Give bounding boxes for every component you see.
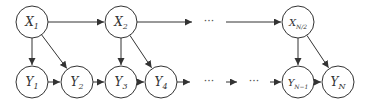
diagram-canvas: ········· X1X2XN/2Y1Y2Y3Y4YN−1YN (0, 0, 374, 106)
edge-x1-to-y2 (42, 35, 67, 69)
node-y1: Y1 (16, 66, 48, 98)
node-yn1: YN−1 (282, 66, 314, 98)
node-xn2: XN/2 (282, 6, 314, 38)
node-x1: X1 (16, 6, 48, 38)
node-x2: X2 (105, 6, 137, 38)
ellipsis-text: ··· (204, 15, 215, 28)
edge-xn2-to-yn (307, 35, 329, 68)
node-circle (282, 6, 314, 38)
nodes-layer: X1X2XN/2Y1Y2Y3Y4YN−1YN (16, 6, 354, 98)
ellipses-layer: ········· (204, 15, 260, 88)
node-y2: Y2 (61, 66, 93, 98)
ellipsis-text: ··· (249, 75, 260, 88)
graphical-model-diagram: ········· X1X2XN/2Y1Y2Y3Y4YN−1YN (0, 0, 374, 106)
node-y3: Y3 (105, 66, 137, 98)
node-y4: Y4 (145, 66, 177, 98)
node-yn: YN (322, 66, 354, 98)
ellipsis-text: ··· (204, 75, 215, 88)
edge-x2-to-y4 (130, 35, 152, 68)
